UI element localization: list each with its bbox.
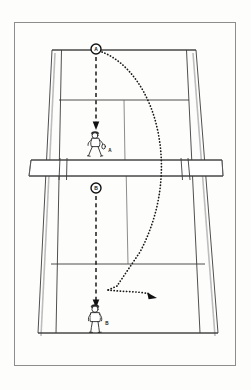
player-a-racquet	[102, 144, 106, 149]
player-a[interactable]: A	[87, 132, 112, 157]
player-a-head	[92, 133, 98, 139]
player-b-leg-left	[91, 322, 93, 332]
net-group	[29, 160, 223, 176]
ball-trajectory-arrowhead	[147, 292, 157, 299]
marker-b[interactable]: B	[91, 183, 101, 193]
player-b-head	[92, 306, 98, 312]
singles-sideline-left	[56, 50, 62, 333]
dashed-path-top-arrowhead	[93, 122, 100, 131]
player-a-leg-right	[98, 147, 101, 156]
marker-a-label: A	[94, 46, 98, 52]
marker-b-label: B	[94, 185, 98, 191]
diagram-page: A B A	[0, 0, 251, 390]
player-b-leg-right	[98, 322, 99, 332]
dotted-ball-skid	[108, 286, 117, 290]
player-b-label: B	[105, 321, 109, 326]
center-service-line-far	[124, 100, 125, 162]
court-outer-boundary	[38, 50, 218, 333]
tennis-court-diagram: A B A	[0, 0, 251, 390]
player-a-leg-left	[89, 147, 93, 156]
player-b[interactable]: B	[88, 305, 109, 333]
center-service-line-near	[126, 165, 128, 264]
marker-a[interactable]: A	[91, 44, 101, 54]
player-b-torso	[90, 313, 101, 322]
singles-sideline-right	[187, 50, 201, 333]
court-group	[29, 50, 223, 336]
net-band	[29, 160, 223, 176]
dotted-ball-hook	[108, 290, 150, 294]
player-a-label: A	[108, 148, 112, 153]
